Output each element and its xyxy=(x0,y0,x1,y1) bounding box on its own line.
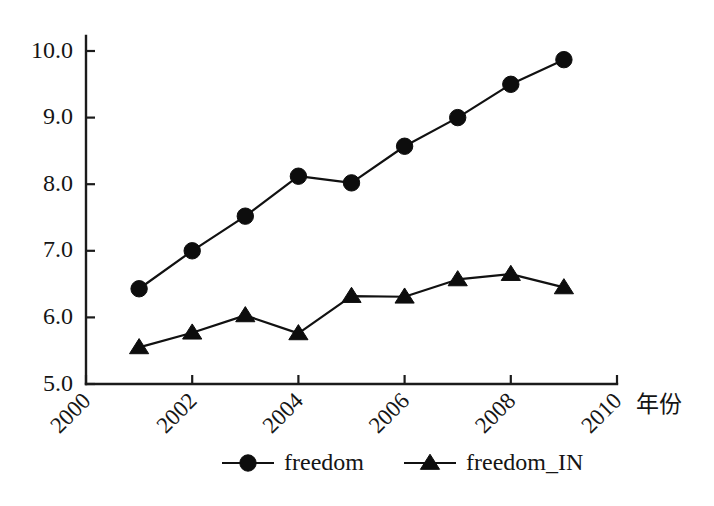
y-tick-label: 10.0 xyxy=(31,37,73,63)
x-axis-title: 年份 xyxy=(636,392,682,417)
circle-marker xyxy=(396,138,412,154)
circle-marker xyxy=(184,243,200,259)
y-tick-label: 5.0 xyxy=(43,370,73,396)
legend-label: freedom xyxy=(284,449,364,475)
x-tick-label: 2002 xyxy=(152,388,202,438)
x-tick-label: 2004 xyxy=(258,388,309,439)
y-tick-label: 8.0 xyxy=(43,170,73,196)
series-freedom_IN xyxy=(130,265,574,353)
circle-marker xyxy=(290,168,306,184)
y-tick-label: 9.0 xyxy=(43,103,73,129)
triangle-marker xyxy=(501,265,520,280)
circle-marker xyxy=(237,208,253,224)
x-tick-label: 2006 xyxy=(364,388,414,438)
data-series-layer xyxy=(130,51,574,353)
circle-marker xyxy=(131,281,147,297)
chart-legend: freedomfreedom_IN xyxy=(222,449,583,475)
circle-marker xyxy=(503,76,519,92)
circle-marker xyxy=(343,175,359,191)
y-tick-label: 6.0 xyxy=(43,303,73,329)
triangle-marker xyxy=(342,287,361,302)
circle-marker xyxy=(450,109,466,125)
circle-marker xyxy=(556,51,572,67)
triangle-marker xyxy=(236,307,255,322)
circle-marker xyxy=(240,455,256,471)
axes-group xyxy=(86,36,617,384)
y-tick-label: 7.0 xyxy=(43,236,73,262)
series-freedom xyxy=(131,51,572,297)
legend-label: freedom_IN xyxy=(466,449,583,475)
series-line-freedom_IN xyxy=(139,274,564,347)
triangle-marker xyxy=(420,454,439,469)
legend-item-freedom_IN[interactable]: freedom_IN xyxy=(404,449,583,475)
x-tick-label: 2010 xyxy=(576,388,626,438)
x-tick-label: 2008 xyxy=(470,388,520,438)
line-chart-canvas: 5.06.07.08.09.010.0 20002002200420062008… xyxy=(0,0,714,506)
legend-item-freedom[interactable]: freedom xyxy=(222,449,364,475)
chart-figure: 5.06.07.08.09.010.0 20002002200420062008… xyxy=(0,0,714,506)
